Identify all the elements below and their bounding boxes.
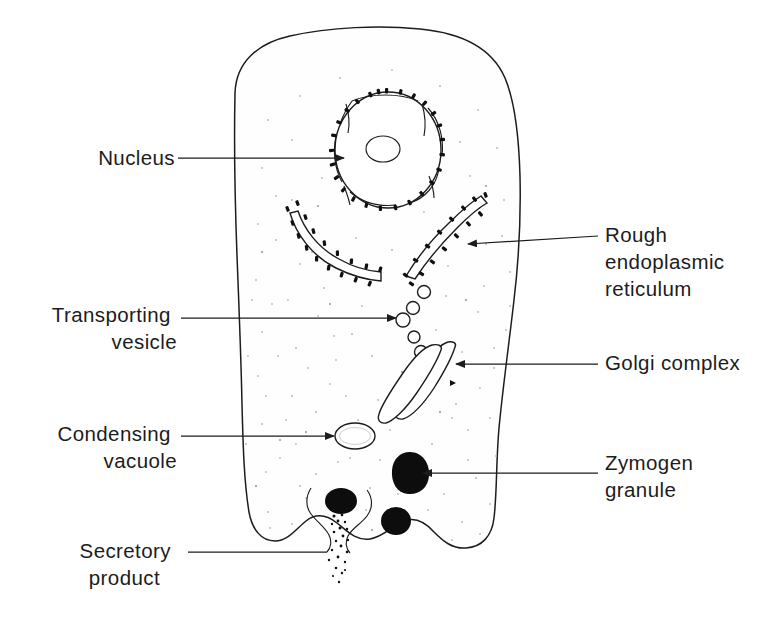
- label-sp-line-1: Secretory: [80, 539, 172, 562]
- label-cv-line-1: Condensing: [57, 422, 170, 445]
- label-zg-line-2: granule: [605, 478, 676, 501]
- label-golgi-complex: Golgi complex: [605, 351, 740, 374]
- label-tv-line-2: vesicle: [112, 330, 177, 353]
- label-condensing-vacuole: Condensing vacuole: [57, 422, 177, 472]
- label-nucleus: Nucleus: [98, 146, 175, 169]
- label-rough-endoplasmic-reticulum: Rough endoplasmic reticulum: [605, 223, 731, 300]
- label-sp-line-2: product: [89, 566, 160, 589]
- condensing-vacuole: [335, 423, 375, 449]
- label-rer-line-3: reticulum: [605, 277, 692, 300]
- figure-canvas: Nucleus Rough endoplasmic reticulum Tran…: [0, 0, 781, 624]
- label-rer-line-2: endoplasmic: [605, 250, 725, 273]
- label-secretory-product: Secretory product: [80, 539, 177, 589]
- label-zg-line-1: Zymogen: [605, 451, 693, 474]
- label-cv-line-2: vacuole: [104, 449, 177, 472]
- label-tv-line-1: Transporting: [52, 303, 171, 326]
- label-zymogen-granule: Zymogen granule: [605, 451, 699, 501]
- fusing-granule: [325, 488, 357, 514]
- label-transporting-vesicle: Transporting vesicle: [52, 303, 177, 353]
- label-rer-line-1: Rough: [605, 223, 667, 246]
